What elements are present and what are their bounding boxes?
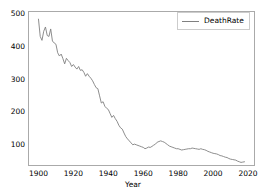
y-tick-label: 300 xyxy=(11,76,25,84)
data-series-deathrate xyxy=(38,19,244,162)
y-axis-tick-labels: 100200300400500 xyxy=(0,0,25,193)
x-tick-label: 2000 xyxy=(204,170,223,178)
x-tick-label: 2020 xyxy=(238,170,257,178)
plot-area xyxy=(28,11,255,166)
chart-legend: DeathRate xyxy=(177,12,250,30)
y-tick-label: 100 xyxy=(11,141,25,149)
y-tick-label: 500 xyxy=(11,11,25,19)
x-tick-label: 1940 xyxy=(99,170,118,178)
legend-entry-label: DeathRate xyxy=(204,17,244,25)
chart-figure: 100200300400500 190019201940196019802000… xyxy=(0,0,266,193)
x-tick-label: 1900 xyxy=(29,170,48,178)
legend-line-swatch xyxy=(182,21,199,22)
x-axis-label: Year xyxy=(0,181,266,189)
x-tick-label: 1960 xyxy=(134,170,153,178)
x-tick-label: 1920 xyxy=(64,170,83,178)
x-tick-label: 1980 xyxy=(169,170,188,178)
y-tick-label: 400 xyxy=(11,43,25,51)
y-tick-label: 200 xyxy=(11,108,25,116)
line-chart-svg xyxy=(28,11,255,166)
axes-spines xyxy=(28,11,255,166)
